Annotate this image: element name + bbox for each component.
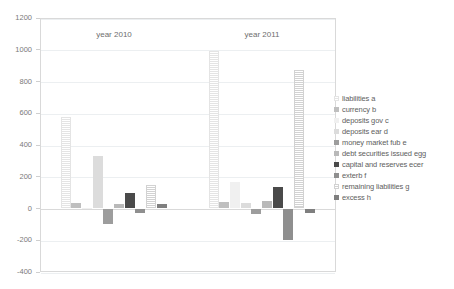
legend-swatch-icon [334, 96, 339, 101]
bars-layer [40, 18, 336, 272]
legend-swatch-icon [334, 162, 339, 167]
y-axis-tick-label: 400 [0, 141, 32, 149]
legend-label: remaining liabilities g [342, 181, 409, 192]
y-axis-tick-label: 1200 [0, 14, 32, 22]
y-axis-tick-label: 200 [0, 173, 32, 181]
bar [103, 209, 113, 224]
legend-item[interactable]: excess h [334, 192, 452, 203]
legend-item[interactable]: debt securities issued egg [334, 148, 452, 159]
legend-swatch-icon [334, 195, 339, 200]
legend-item[interactable]: money market fub e [334, 137, 452, 148]
legend-label: debt securities issued egg [342, 148, 426, 159]
legend-item[interactable]: deposits gov c [334, 115, 452, 126]
legend-label: money market fub e [342, 137, 406, 148]
bar [241, 203, 251, 209]
bar [125, 193, 135, 208]
legend-label: capital and reserves ecer [342, 159, 423, 170]
legend-swatch-icon [334, 118, 339, 123]
bar [262, 201, 272, 208]
legend-label: exterb f [342, 170, 366, 181]
y-axis-tick-label: -200 [0, 236, 32, 244]
legend-swatch-icon [334, 107, 339, 112]
bar [230, 182, 240, 209]
legend-item[interactable]: remaining liabilities g [334, 181, 452, 192]
bar [135, 209, 145, 214]
bar [93, 156, 103, 208]
y-axis-tick-label: 600 [0, 109, 32, 117]
legend: liabilities acurrency bdeposits gov cdep… [334, 93, 452, 203]
legend-label: liabilities a [342, 93, 375, 104]
legend-swatch-icon [334, 151, 339, 156]
legend-swatch-icon [334, 140, 339, 145]
legend-item[interactable]: exterb f [334, 170, 452, 181]
legend-item[interactable]: capital and reserves ecer [334, 159, 452, 170]
legend-item[interactable]: liabilities a [334, 93, 452, 104]
y-axis-tick-label: 800 [0, 78, 32, 86]
bar [305, 209, 315, 214]
bar [146, 185, 156, 209]
gridline [41, 273, 335, 274]
bar [209, 51, 219, 209]
y-axis-tick-label: 0 [0, 205, 32, 213]
y-axis-tick-label: 1000 [0, 46, 32, 54]
legend-label: currency b [342, 104, 376, 115]
bar [114, 204, 124, 209]
legend-swatch-icon [334, 129, 339, 134]
bar [273, 187, 283, 208]
legend-item[interactable]: deposits ear d [334, 126, 452, 137]
bar-chart: 120010008006004002000-200-400 year 2010y… [0, 0, 454, 289]
bar [219, 202, 229, 208]
bar [157, 204, 167, 209]
bar [82, 208, 92, 209]
legend-label: deposits ear d [342, 126, 388, 137]
y-axis-tick-label: -400 [0, 268, 32, 276]
bar [71, 203, 81, 209]
legend-item[interactable]: currency b [334, 104, 452, 115]
bar [294, 70, 304, 208]
bar [251, 209, 261, 215]
legend-swatch-icon [334, 173, 339, 178]
legend-label: deposits gov c [342, 115, 389, 126]
legend-label: excess h [342, 192, 371, 203]
bar [61, 117, 71, 208]
bar [283, 209, 293, 241]
legend-swatch-icon [334, 184, 339, 189]
